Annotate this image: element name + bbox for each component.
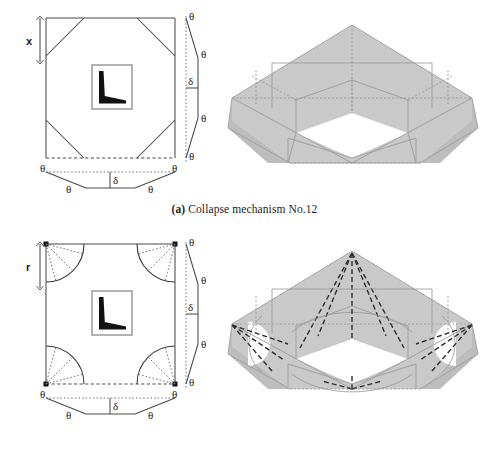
plan-b-fan-tr [138, 244, 175, 281]
panel-b-drawing: θ θ δ θ θ θ θ θ θ δ r [0, 226, 489, 426]
right-theta-3-b: θ [201, 338, 206, 350]
plan-b-dimension-label: r [26, 261, 31, 273]
plan-a-chamfer-top-left [46, 18, 84, 56]
figure-panel-a: θ θ δ θ θ θ θ θ θ δ x [0, 0, 489, 225]
right-angle-diagram-a: θ θ δ θ θ [186, 10, 206, 162]
right-theta-2-b: θ [201, 274, 206, 286]
bottom-fold-right-b [135, 398, 175, 414]
bottom-theta-1-a: θ [40, 162, 45, 174]
right-theta-2-a: θ [201, 48, 206, 60]
right-theta-4-b: θ [189, 376, 194, 388]
figure-panel-b: θ θ δ θ θ θ θ θ θ δ r [0, 226, 489, 451]
bottom-delta-a: δ [113, 174, 118, 186]
right-theta-3-a: θ [201, 112, 206, 124]
plan-b-fan-tl [46, 244, 83, 281]
bottom-theta-3-b: θ [66, 409, 71, 421]
bottom-delta-b: δ [113, 400, 118, 412]
bottom-theta-4-b: θ [148, 409, 153, 421]
plan-view-a [37, 16, 176, 158]
caption-a-prefix: (a) [172, 203, 189, 215]
plan-b-fan-br [138, 347, 175, 384]
right-theta-4-a: θ [189, 150, 194, 162]
right-angle-diagram-b: θ θ δ θ θ [186, 236, 206, 388]
plan-a-dimension-label: x [26, 35, 33, 47]
right-fold-upper-b [186, 244, 198, 284]
plan-a-chamfer-top-right [137, 18, 175, 56]
caption-a-text: Collapse mechanism No.12 [188, 203, 317, 215]
right-fold-upper-a [186, 18, 198, 58]
bottom-angle-diagram-a: θ θ θ θ δ [40, 162, 177, 195]
right-theta-1-a: θ [189, 10, 194, 22]
right-theta-1-b: θ [189, 236, 194, 248]
plan-view-b [37, 242, 178, 387]
bottom-theta-1-b: θ [40, 388, 45, 400]
dimension-marker-x [37, 16, 44, 64]
isometric-view-a [228, 25, 478, 163]
bottom-fold-right-a [135, 172, 175, 188]
bottom-theta-2-a: θ [172, 162, 177, 174]
right-delta-a: δ [188, 75, 193, 87]
isometric-view-b [228, 251, 478, 392]
bottom-theta-3-a: θ [66, 183, 71, 195]
bottom-theta-2-b: θ [172, 388, 177, 400]
plan-a-chamfer-bottom-right [137, 120, 175, 158]
dimension-marker-r [37, 242, 44, 290]
panel-a-drawing: θ θ δ θ θ θ θ θ θ δ x [0, 0, 489, 200]
right-delta-b: δ [188, 301, 193, 313]
bottom-theta-4-a: θ [148, 183, 153, 195]
caption-a: (a) Collapse mechanism No.12 [0, 203, 489, 215]
plan-a-chamfer-bottom-left [46, 120, 84, 158]
bottom-angle-diagram-b: θ θ θ θ δ [40, 388, 177, 421]
plan-b-fan-bl [46, 347, 83, 384]
